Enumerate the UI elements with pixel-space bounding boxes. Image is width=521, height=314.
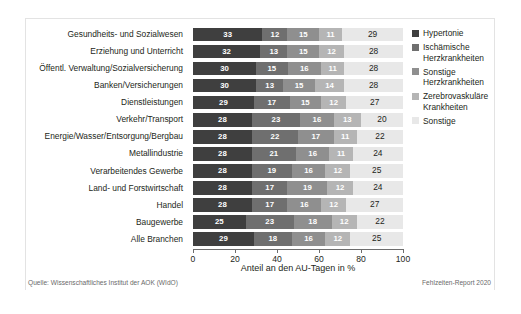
- bar-segment[interactable]: 30: [193, 62, 256, 76]
- bar-segment[interactable]: 11: [334, 130, 357, 144]
- bar-segment-value: 25: [215, 217, 224, 226]
- legend-item[interactable]: Hypertonie: [412, 28, 516, 39]
- bar-total-value: 28: [361, 62, 387, 76]
- bar-total-value: 27: [362, 96, 388, 110]
- bar-segment[interactable]: 28: [193, 147, 252, 161]
- bar-segment[interactable]: 16: [300, 113, 334, 127]
- bar-segment[interactable]: 28: [193, 130, 252, 144]
- bar-segment[interactable]: 15: [256, 62, 288, 76]
- bar-segment[interactable]: 22: [252, 130, 298, 144]
- bar-segment[interactable]: 14: [315, 79, 344, 93]
- bar-segment[interactable]: 12: [319, 45, 344, 59]
- bar-segment-value: 18: [268, 234, 277, 243]
- bar-segment[interactable]: 11: [329, 147, 352, 161]
- bar-segment-value: 28: [218, 200, 227, 209]
- bar-segment-value: 13: [269, 47, 278, 56]
- bar-segment[interactable]: 12: [325, 164, 350, 178]
- bar-segment[interactable]: 16: [287, 198, 321, 212]
- legend-item[interactable]: Ischämische Herzkrankheiten: [412, 42, 516, 63]
- bar-segment[interactable]: 17: [252, 181, 288, 195]
- bar-segment[interactable]: 15: [283, 79, 315, 93]
- bar-segment[interactable]: 18: [254, 232, 292, 246]
- bar-segment[interactable]: 12: [332, 215, 357, 229]
- bar-segment-value: 33: [223, 30, 232, 39]
- bar-segment[interactable]: 15: [287, 28, 319, 42]
- x-axis-tick: [403, 249, 404, 253]
- bar-segment[interactable]: 16: [296, 147, 330, 161]
- bar-segment-value: 12: [334, 166, 343, 175]
- category-label: Erziehung und Unterricht: [28, 43, 188, 60]
- bar-segment[interactable]: 15: [287, 45, 319, 59]
- bar-row: 282316132020: [193, 111, 403, 128]
- bar-segment-value: 11: [326, 30, 334, 39]
- bar-segment[interactable]: 18: [294, 215, 332, 229]
- bar-segment[interactable]: 12: [321, 198, 346, 212]
- bar-segment-value: 12: [340, 217, 349, 226]
- bar-row: 291715122727: [193, 94, 403, 111]
- legend-item-label: Hypertonie: [423, 28, 516, 39]
- bar-segment[interactable]: 17: [254, 96, 290, 110]
- bar-segment-value: 12: [334, 234, 343, 243]
- bar-segment[interactable]: 23: [246, 215, 294, 229]
- legend-swatch-icon: [412, 44, 419, 51]
- bar-total-value: 27: [362, 198, 388, 212]
- bar-segment[interactable]: 11: [321, 62, 344, 76]
- source-note: Quelle: Wissenschaftliches Institut der …: [28, 279, 178, 286]
- bar-segment[interactable]: 21: [252, 147, 296, 161]
- bar-segment-value: 13: [343, 115, 352, 124]
- bar-segment[interactable]: 28: [193, 113, 252, 127]
- bar-segment[interactable]: 16: [292, 232, 326, 246]
- bar-segment[interactable]: 15: [290, 96, 322, 110]
- bar-segment[interactable]: 11: [319, 28, 342, 42]
- legend-item-label: Sonstige Herzkrankheiten: [423, 67, 516, 88]
- bar-segment[interactable]: 13: [256, 79, 283, 93]
- x-axis-title: Anteil an den AU-Tagen in %: [193, 263, 403, 273]
- category-label: Öffentl. Verwaltung/Sozialversicherung: [28, 60, 188, 77]
- bar-segment[interactable]: 29: [193, 96, 254, 110]
- bar-segment[interactable]: 19: [287, 181, 327, 195]
- bar-segment[interactable]: 23: [252, 113, 300, 127]
- bar-segment[interactable]: 25: [193, 215, 246, 229]
- bar-segment-value: 23: [272, 115, 281, 124]
- bar-segment[interactable]: 28: [193, 198, 252, 212]
- bar-segment[interactable]: 30: [193, 79, 256, 93]
- bar-segment[interactable]: 13: [260, 45, 287, 59]
- bar-segment[interactable]: 28: [193, 164, 252, 178]
- bar-segment[interactable]: 17: [252, 198, 288, 212]
- report-note: Fehlzeiten-Report 2020: [422, 279, 491, 286]
- legend-item[interactable]: Sonstige: [412, 116, 516, 127]
- bar-row: 282217112222: [193, 128, 403, 145]
- legend-item-label: Ischämische Herzkrankheiten: [423, 42, 516, 63]
- bar-segment[interactable]: 12: [327, 181, 352, 195]
- bar-segment[interactable]: 12: [321, 96, 346, 110]
- category-label: Alle Branchen: [28, 231, 188, 248]
- bar-segment[interactable]: 17: [298, 130, 334, 144]
- legend-swatch-icon: [412, 30, 419, 37]
- bar-segment[interactable]: 16: [292, 164, 326, 178]
- category-axis-labels: Gesundheits- und SozialwesenErziehung un…: [28, 26, 188, 248]
- category-label: Dienstleistungen: [28, 94, 188, 111]
- category-label: Metallindustrie: [28, 145, 188, 162]
- bar-segment-value: 19: [267, 166, 276, 175]
- bar-total-value: 28: [361, 79, 387, 93]
- bar-segment-value: 28: [218, 132, 227, 141]
- bar-row: 252318122222: [193, 214, 403, 231]
- bar-segment[interactable]: 12: [262, 28, 287, 42]
- bar-segment[interactable]: 28: [193, 181, 252, 195]
- bar-segment[interactable]: 16: [288, 62, 322, 76]
- bar-segment[interactable]: 29: [193, 232, 254, 246]
- bar-segment[interactable]: 12: [325, 232, 350, 246]
- legend-item[interactable]: Sonstige Herzkrankheiten: [412, 67, 516, 88]
- bar-segment-value: 17: [265, 183, 274, 192]
- bar-segment-value: 12: [329, 200, 338, 209]
- legend-item[interactable]: Zerebrovaskuläre Krankheiten: [412, 91, 516, 112]
- bar-segment[interactable]: 13: [334, 113, 361, 127]
- bar-segment[interactable]: 32: [193, 45, 260, 59]
- bar-segment-value: 17: [265, 200, 274, 209]
- bar-segment[interactable]: 19: [252, 164, 292, 178]
- bar-segment[interactable]: 33: [193, 28, 262, 42]
- legend-swatch-icon: [412, 93, 419, 100]
- x-axis-tick: [277, 249, 278, 253]
- bar-segment-value: 13: [265, 81, 274, 90]
- legend-swatch-icon: [412, 68, 419, 75]
